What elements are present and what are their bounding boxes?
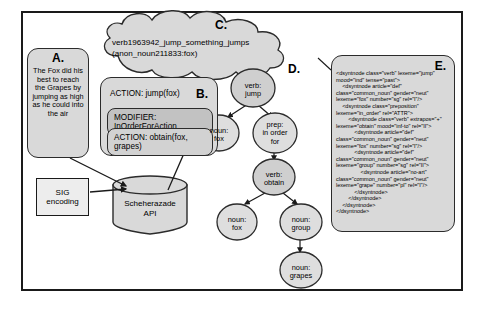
node-noun-fox-2-line2: fox (232, 223, 242, 232)
node-label-noun-grapes: noun: grapes (281, 264, 321, 281)
panel-c-line-1: verb1963942_jump_something_jumps (112, 38, 298, 49)
node-verb-jump-line2: jump (245, 89, 261, 98)
node-label-verb-jump: verb: jump (233, 82, 273, 99)
panel-d-letter: D. (288, 62, 300, 76)
node-label-noun-fox-2: noun: fox (218, 216, 256, 233)
panel-c-letter: C. (215, 18, 227, 32)
node-noun-group-line2: group (292, 223, 311, 232)
sig-encoding-line-1: SIG (56, 188, 70, 197)
panel-a-letter: A. (32, 52, 84, 65)
database-line-1: Scheherazade (124, 199, 176, 208)
node-verb-obtain-line2: obtain (264, 178, 284, 187)
node-label-verb-obtain: verb: obtain (253, 171, 295, 188)
panel-a-story-text: The Fox did his best to reach the Grapes… (32, 67, 84, 119)
panel-e-xml-text: <dsyntnode class="verb" lexeme="jump" mo… (336, 70, 452, 215)
sig-encoding-box: SIG encoding (36, 178, 89, 216)
panel-b-letter: B. (196, 87, 208, 101)
sig-encoding-line-2: encoding (46, 197, 78, 206)
database-label: Scheherazade API (113, 199, 187, 218)
node-noun-fox-1-line2: fox (214, 134, 224, 143)
sig-encoding-label: SIG encoding (46, 188, 78, 207)
panel-c-text: verb1963942_jump_something_jumps (anon_n… (112, 38, 298, 59)
node-label-noun-group: noun: group (281, 216, 321, 233)
node-noun-grapes-line2: grapes (290, 271, 313, 280)
panel-a-story: A. The Fox did his best to reach the Gra… (27, 48, 89, 158)
panel-b-action-bottom: ACTION: obtain(fox, grapes) (107, 128, 213, 156)
node-label-prep-in-order-for: prep: in order for (254, 121, 296, 146)
figure-canvas: A. The Fox did his best to reach the Gra… (0, 0, 486, 311)
panel-b-action-top: ACTION: jump(fox) (110, 89, 180, 98)
node-label-noun-fox-1: noun: fox (200, 127, 238, 144)
panel-e-xml: E. <dsyntnode class="verb" lexeme="jump"… (331, 55, 455, 232)
database-line-2: API (144, 209, 157, 218)
node-prep-line3: for (271, 137, 280, 146)
panel-c-line-2: (anon_noun211833:fox) (112, 49, 298, 60)
panel-b-sig: B. ACTION: jump(fox) MODIFIER: InOrderFo… (100, 77, 218, 156)
